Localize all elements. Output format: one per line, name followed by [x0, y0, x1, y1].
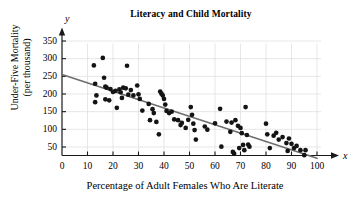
- x-axis-tick-label: 100: [307, 161, 327, 171]
- y-axis-tick-label: 350: [31, 36, 57, 46]
- x-axis-tick-label: 30: [129, 161, 149, 171]
- y-axis-tick-label: 50: [31, 142, 57, 152]
- y-axis-tick-label: 300: [31, 53, 57, 63]
- x-axis-tick-label: 20: [103, 161, 123, 171]
- y-axis-letter: y: [65, 13, 69, 24]
- scatter-plot-svg: [0, 0, 353, 201]
- x-axis-tick-label: 60: [205, 161, 225, 171]
- x-axis-tick-label: 10: [78, 161, 98, 171]
- x-axis-tick-label: 90: [282, 161, 302, 171]
- y-axis-tick-label: 150: [31, 106, 57, 116]
- axis-lines: [59, 27, 339, 158]
- x-axis-tick-label: 40: [154, 161, 174, 171]
- x-axis-tick-label: 70: [231, 161, 251, 171]
- x-axis-tick-label: 80: [256, 161, 276, 171]
- data-points: [92, 56, 308, 158]
- x-axis-tick-label: 0: [52, 161, 72, 171]
- y-axis-tick-label: 100: [31, 124, 57, 134]
- y-axis-tick-label: 200: [31, 89, 57, 99]
- chart-figure: Literacy and Child Mortality Under-Five …: [0, 0, 353, 201]
- y-axis-tick-label: 250: [31, 71, 57, 81]
- x-axis-tick-label: 50: [180, 161, 200, 171]
- x-axis-letter: x: [343, 150, 347, 161]
